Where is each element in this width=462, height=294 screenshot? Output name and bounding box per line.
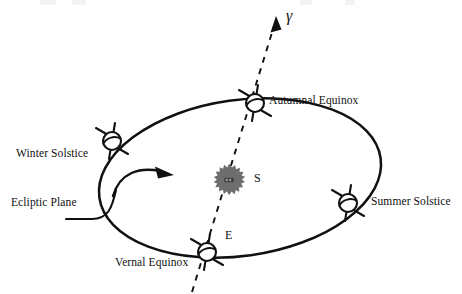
earth-at-vernal-equinox <box>191 234 223 270</box>
sun-icon <box>214 164 246 195</box>
earth-at-summer-solstice <box>332 185 364 221</box>
label-autumnal-equinox: Autumnal Equinox <box>269 95 358 107</box>
curved-arrow-head-icon <box>155 167 174 179</box>
arrowhead-icon <box>271 16 282 33</box>
ecliptic-plane-diagram: Autumnal Equinox Winter Solstice Summer … <box>0 0 462 294</box>
label-sun: S <box>254 172 261 184</box>
label-vernal-equinox: Vernal Equinox <box>115 257 188 269</box>
label-summer-solstice: Summer Solstice <box>371 196 451 208</box>
earth-at-autumnal-equinox <box>239 85 271 121</box>
label-vernal-point-gamma: γ <box>286 8 292 24</box>
curved-arrow-icon <box>113 170 160 196</box>
earth-at-winter-solstice <box>96 123 128 159</box>
label-earth: E <box>225 229 232 241</box>
label-winter-solstice: Winter Solstice <box>16 148 88 160</box>
label-ecliptic-plane: Ecliptic Plane <box>11 197 77 209</box>
